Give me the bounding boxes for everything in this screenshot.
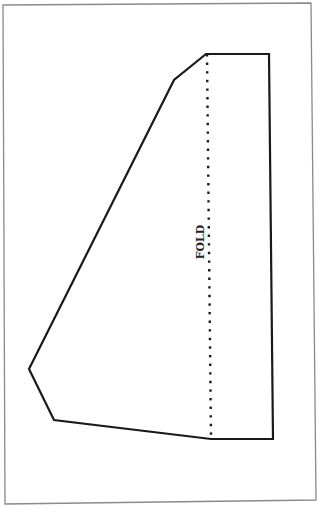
fold-line (207, 54, 211, 439)
pattern-piece-outline (29, 54, 273, 439)
pattern-diagram: FOLD (0, 0, 319, 508)
fold-label: FOLD (194, 224, 207, 259)
